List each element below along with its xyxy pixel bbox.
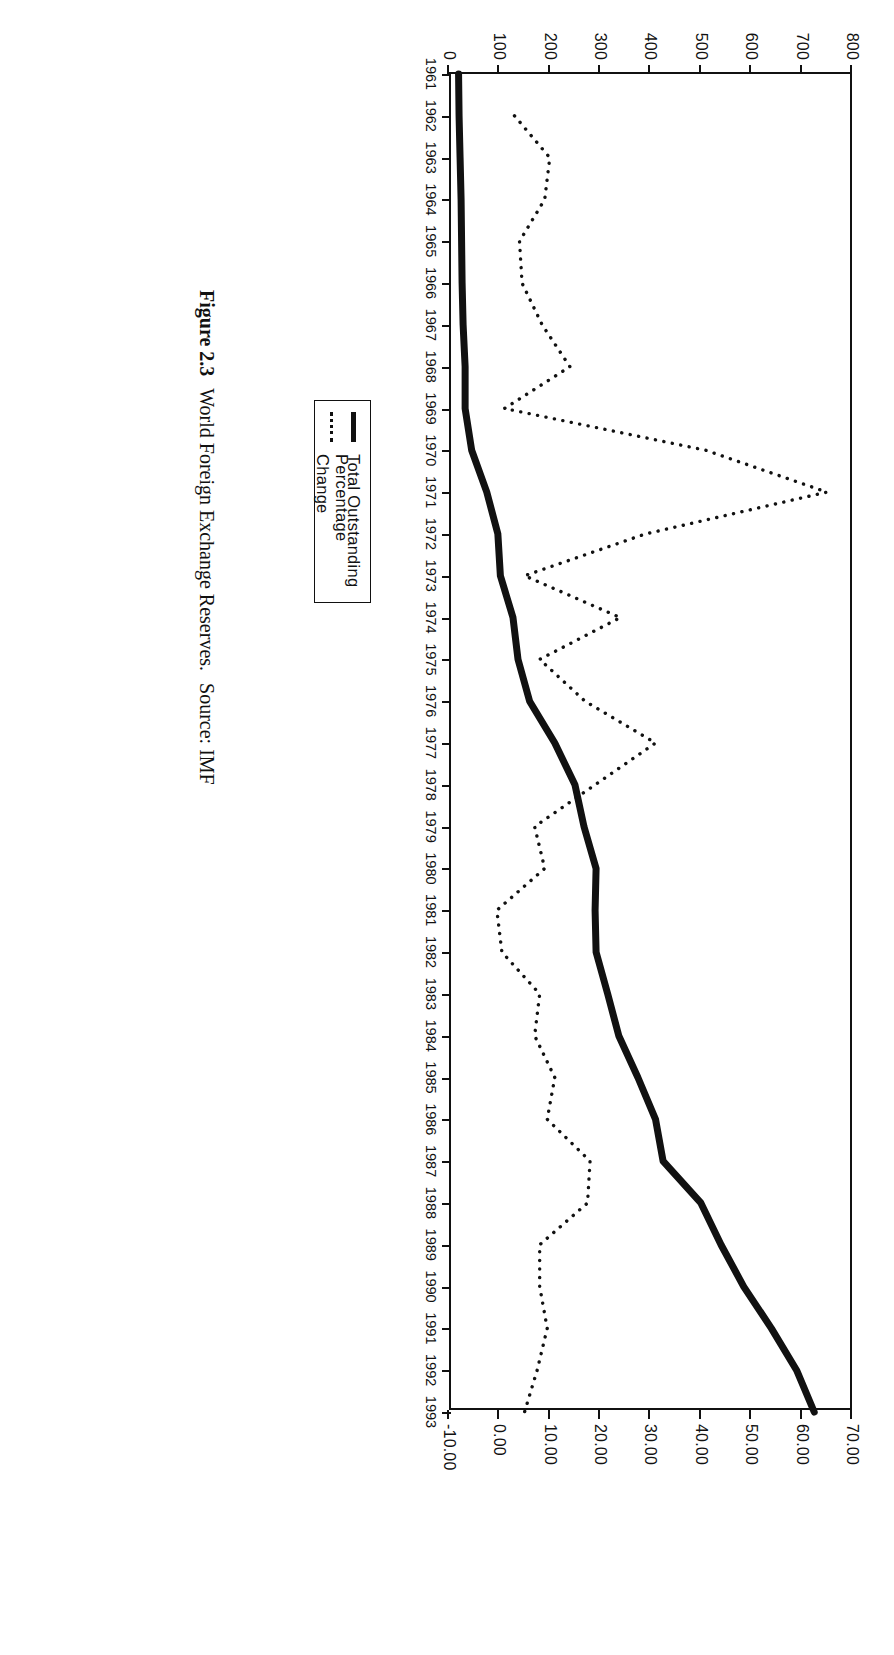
y-axis-left-label: 100 — [490, 33, 508, 60]
x-axis-tick — [442, 241, 451, 243]
figure-source: Source: IMF — [196, 683, 218, 785]
x-axis-tick — [442, 367, 451, 369]
x-axis-tick — [442, 994, 451, 996]
y-axis-right-tick — [699, 1410, 701, 1419]
legend-item-percentage-change: Percentage Change — [321, 410, 343, 593]
x-axis-tick — [442, 952, 451, 954]
x-axis-label: 1989 — [423, 1229, 439, 1261]
x-axis-tick — [442, 1119, 451, 1121]
x-axis-label: 1969 — [423, 392, 439, 424]
x-axis-tick — [442, 1161, 451, 1163]
x-axis-tick — [442, 1078, 451, 1080]
y-axis-right-tick — [850, 1410, 852, 1419]
y-axis-left-tick — [497, 65, 499, 74]
x-axis-tick — [442, 576, 451, 578]
x-axis-tick — [442, 283, 451, 285]
y-axis-right-label: 10.00 — [541, 1424, 559, 1465]
y-axis-right-label: 60.00 — [793, 1424, 811, 1465]
y-axis-right-label: -10.00 — [440, 1424, 458, 1471]
y-axis-left-tick — [598, 65, 600, 74]
y-axis-left-label: 700 — [793, 33, 811, 60]
y-axis-right-tick — [749, 1410, 751, 1419]
rotated-page-wrapper: 0100200300400500600700800-10.000.0010.00… — [0, 0, 894, 1655]
x-axis-tick — [442, 868, 451, 870]
x-axis-label: 1963 — [423, 141, 439, 173]
y-axis-right-label: 50.00 — [742, 1424, 760, 1465]
chart-lines — [449, 74, 852, 1412]
x-axis-label: 1977 — [423, 727, 439, 759]
y-axis-right-label: 30.00 — [642, 1424, 660, 1465]
series-line-percentage-change — [497, 116, 827, 1412]
x-axis-label: 1983 — [423, 978, 439, 1010]
x-axis-tick — [442, 785, 451, 787]
x-axis-tick — [442, 534, 451, 536]
y-axis-right-label: 0.00 — [490, 1424, 508, 1456]
x-axis-label: 1993 — [423, 1396, 439, 1428]
x-axis-label: 1973 — [423, 560, 439, 592]
figure-title: World Foreign Exchange Reserves. — [196, 388, 218, 671]
x-axis-label: 1978 — [423, 769, 439, 801]
x-axis-label: 1976 — [423, 685, 439, 717]
y-axis-right-label: 40.00 — [692, 1424, 710, 1465]
x-axis-tick — [442, 325, 451, 327]
x-axis-label: 1986 — [423, 1103, 439, 1135]
y-axis-left-label: 600 — [742, 33, 760, 60]
x-axis-tick — [442, 1245, 451, 1247]
x-axis-tick — [442, 1328, 451, 1330]
y-axis-right-tick — [497, 1410, 499, 1419]
x-axis-label: 1990 — [423, 1270, 439, 1302]
y-axis-left-tick — [749, 65, 751, 74]
x-axis-tick — [442, 910, 451, 912]
y-axis-left-label: 200 — [541, 33, 559, 60]
x-axis-label: 1975 — [423, 643, 439, 675]
plot-top-border — [850, 74, 852, 1410]
x-axis-label: 1974 — [423, 601, 439, 633]
x-axis-label: 1992 — [423, 1354, 439, 1386]
x-axis-tick — [442, 1036, 451, 1038]
x-axis-tick — [442, 409, 451, 411]
y-axis-left-tick — [548, 65, 550, 74]
y-axis-left-label: 400 — [642, 33, 660, 60]
y-axis-right-tick — [649, 1410, 651, 1419]
x-axis-label: 1965 — [423, 225, 439, 257]
x-axis-label: 1982 — [423, 936, 439, 968]
x-axis-label: 1985 — [423, 1061, 439, 1093]
x-axis-label: 1967 — [423, 309, 439, 341]
y-axis-left-tick — [850, 65, 852, 74]
figure-caption: Figure 2.3World Foreign Exchange Reserve… — [195, 290, 218, 785]
solid-line-icon — [352, 410, 357, 444]
y-axis-right-tick — [548, 1410, 550, 1419]
y-axis-left-label: 500 — [692, 33, 710, 60]
x-axis-tick — [442, 1370, 451, 1372]
y-axis-left-label: 800 — [843, 33, 861, 60]
x-axis-label: 1972 — [423, 518, 439, 550]
y-axis-left-tick — [447, 65, 449, 74]
x-axis-tick — [442, 492, 451, 494]
y-axis-left-tick — [699, 65, 701, 74]
y-axis-left-label: 300 — [591, 33, 609, 60]
dotted-line-icon — [331, 410, 334, 444]
x-axis-tick — [442, 1203, 451, 1205]
series-line-total-outstanding — [459, 74, 815, 1412]
x-axis-tick — [442, 743, 451, 745]
y-axis-left-tick — [649, 65, 651, 74]
x-axis-label: 1987 — [423, 1145, 439, 1177]
y-axis-left-tick — [800, 65, 802, 74]
x-axis-tick — [442, 158, 451, 160]
x-axis-tick — [442, 74, 451, 76]
y-axis-right-tick — [598, 1410, 600, 1419]
x-axis-tick — [442, 659, 451, 661]
chart-plot-area: 0100200300400500600700800-10.000.0010.00… — [449, 72, 852, 1410]
x-axis-label: 1968 — [423, 351, 439, 383]
x-axis-tick — [442, 1412, 451, 1414]
y-axis-left-label: 0 — [440, 51, 458, 60]
legend-label-percentage-change: Percentage Change — [313, 454, 351, 593]
x-axis-tick — [442, 450, 451, 452]
figure-2-3: 0100200300400500600700800-10.000.0010.00… — [0, 0, 894, 1655]
x-axis-tick — [442, 199, 451, 201]
x-axis-label: 1980 — [423, 852, 439, 884]
figure-number: Figure 2.3 — [196, 290, 218, 376]
x-axis-label: 1988 — [423, 1187, 439, 1219]
x-axis-tick — [442, 701, 451, 703]
x-axis-label: 1966 — [423, 267, 439, 299]
